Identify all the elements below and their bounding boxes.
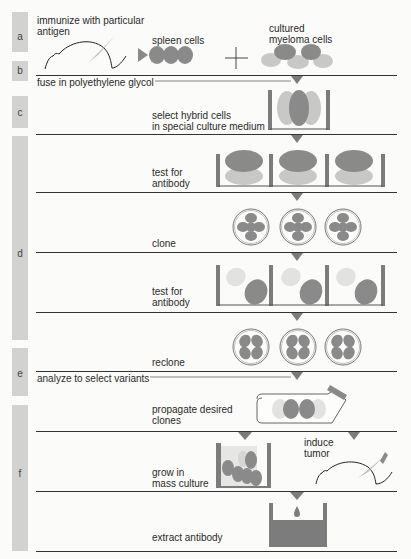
down-arrow-icon — [291, 193, 303, 201]
petri-dish — [280, 209, 316, 245]
clone-dishes — [233, 209, 361, 245]
petri-dish — [233, 209, 269, 245]
cell — [245, 231, 257, 241]
down-arrow-icon — [291, 313, 303, 321]
process-artwork — [0, 0, 411, 559]
antibody-drop-icon — [294, 506, 300, 517]
mouse-icon — [45, 42, 126, 69]
antibody-vessel — [269, 503, 327, 547]
cell — [246, 223, 256, 232]
down-arrow-icon — [238, 432, 252, 440]
spleen-cell — [149, 46, 165, 64]
spleen-cells — [149, 46, 193, 64]
down-arrow-icon — [291, 253, 303, 261]
test-wells-1 — [216, 150, 385, 187]
cell — [292, 231, 304, 241]
spleen-cell — [177, 46, 193, 64]
down-arrow-icon — [291, 135, 303, 143]
down-arrow-icon — [291, 76, 303, 84]
syringe-tip — [380, 452, 388, 464]
cell — [293, 223, 303, 232]
syringe-icon — [88, 36, 115, 63]
cell — [245, 213, 257, 223]
down-arrow-icon — [291, 372, 303, 380]
hybrid-culture-container — [268, 90, 330, 130]
petri-dish — [233, 329, 269, 365]
arrow-right-icon — [138, 48, 148, 62]
spleen-cell — [163, 46, 179, 64]
cell — [337, 231, 349, 241]
reclone-dishes — [233, 329, 361, 365]
down-arrow-icon — [348, 432, 360, 440]
cell — [338, 223, 348, 232]
myeloma-cells — [261, 44, 333, 69]
petri-dish — [325, 329, 361, 365]
mouse-tumor-icon — [316, 462, 392, 484]
plus-icon — [225, 47, 248, 69]
petri-dish — [325, 209, 361, 245]
cell — [292, 213, 304, 223]
culture-flask — [257, 385, 347, 423]
down-arrow-icon — [290, 492, 304, 500]
cell — [337, 213, 349, 223]
petri-dish — [280, 329, 316, 365]
mass-culture-container — [216, 443, 271, 488]
test-wells-2 — [216, 265, 385, 309]
